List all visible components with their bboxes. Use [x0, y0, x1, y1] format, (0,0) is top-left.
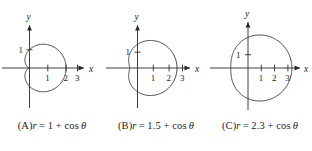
panel-b-caption-theta: θ	[189, 120, 194, 131]
panel-a-x-axis-label: x	[88, 64, 94, 74]
panel-c-x-tick-3: 3	[285, 73, 290, 83]
panel-c-caption: (C)r = 2.3 + cos θ	[208, 119, 312, 133]
panel-a-x-tick-1: 1	[45, 73, 50, 83]
panel-c: x y 1 2 3 1 (C)r = 2.3 + cos θ	[208, 0, 312, 151]
panel-c-y-axis-label: y	[244, 9, 250, 19]
panel-b-y-axis-label: y	[134, 12, 140, 22]
panel-b-x-tick-3: 3	[180, 73, 185, 83]
panel-c-x-axis	[210, 66, 300, 71]
panel-a-caption-label: (A)	[18, 120, 33, 131]
panel-a-plot: x y 1 2 3 1	[0, 0, 104, 116]
panel-b-x-axis-label: x	[194, 64, 200, 74]
panel-c-x-axis-label: x	[303, 64, 309, 74]
panel-a-y-axis-label: y	[26, 12, 32, 22]
panel-b-y-tick-1: 1	[126, 47, 131, 57]
panel-b-x-tick-2: 2	[167, 73, 172, 83]
panel-a-x-tick-3: 3	[75, 73, 80, 83]
panel-a-x-axis	[2, 66, 84, 71]
limacon-figure: x y 1 2 3 1 (A)r = 1 + cos θ	[0, 0, 312, 151]
panel-a-y-axis	[27, 25, 32, 108]
panel-b-caption: (B)r = 1.5 + cos θ	[104, 119, 208, 133]
panel-b-caption-label: (B)	[118, 120, 132, 131]
panel-a-y-tick-1: 1	[19, 45, 24, 55]
panel-a-caption-eq: = 1 + cos	[39, 120, 79, 131]
panel-c-plot: x y 1 2 3 1	[208, 0, 312, 116]
panel-c-y-tick-1: 1	[236, 50, 241, 60]
panel-b-caption-var: r	[132, 120, 136, 131]
panel-a: x y 1 2 3 1 (A)r = 1 + cos θ	[0, 0, 104, 151]
panel-c-y-axis	[246, 22, 251, 110]
panel-b-plot: x y 1 2 3 1	[104, 0, 208, 116]
panel-a-caption: (A)r = 1 + cos θ	[0, 119, 104, 133]
panel-b-y-axis	[135, 25, 140, 108]
panel-a-caption-theta: θ	[81, 120, 86, 131]
panel-c-x-tick-2: 2	[272, 73, 277, 83]
panel-a-caption-var: r	[33, 120, 37, 131]
panel-b-caption-eq: = 1.5 + cos	[139, 120, 187, 131]
panel-c-caption-label: (C)	[222, 120, 236, 131]
panel-b-x-tick-1: 1	[151, 73, 156, 83]
panel-c-caption-eq: = 2.3 + cos	[243, 120, 291, 131]
panel-b: x y 1 2 3 1 (B)r = 1.5 + cos θ	[104, 0, 208, 151]
panel-a-x-tick-2: 2	[64, 73, 69, 83]
panel-c-caption-theta: θ	[293, 120, 298, 131]
panel-c-x-tick-1: 1	[259, 73, 264, 83]
panel-c-caption-var: r	[236, 120, 240, 131]
